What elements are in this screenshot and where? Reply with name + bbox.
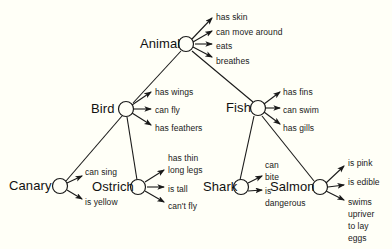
property-label-ostrich-1: long legs bbox=[168, 165, 202, 175]
property-arrow-ostrich-1 bbox=[145, 170, 164, 182]
property-arrow-shark-1 bbox=[248, 176, 262, 183]
property-label-fish-1: can swim bbox=[283, 105, 319, 115]
property-arrow-animal-0 bbox=[192, 18, 212, 39]
property-label-bird-1: can fly bbox=[155, 105, 180, 115]
node-label-canary: Canary bbox=[9, 179, 52, 192]
node-label-bird: Bird bbox=[91, 102, 115, 115]
property-label-salmon-2: swims bbox=[348, 197, 372, 207]
property-label-fish-2: has gills bbox=[283, 123, 314, 133]
node-circle-canary[interactable] bbox=[53, 179, 68, 194]
property-label-salmon-0: is pink bbox=[348, 158, 372, 168]
node-circle-animal[interactable] bbox=[179, 37, 194, 52]
property-arrow-bird-2 bbox=[132, 113, 151, 125]
node-label-fish: Fish bbox=[226, 101, 251, 114]
isa-link-ostrich-bird bbox=[127, 117, 137, 180]
semantic-network-diagram: AnimalBirdFishCanaryOstrichSharkSalmon h… bbox=[0, 0, 392, 249]
property-label-ostrich-2: is tall bbox=[168, 184, 188, 194]
property-label-salmon-4: to lay bbox=[348, 221, 369, 231]
property-arrow-animal-3 bbox=[193, 47, 212, 57]
node-label-ostrich: Ostrich bbox=[92, 180, 134, 193]
property-arrow-shark-2 bbox=[248, 190, 262, 191]
property-arrow-animal-1 bbox=[193, 31, 212, 42]
property-label-ostrich-0: has thin bbox=[168, 153, 198, 163]
node-circle-salmon[interactable] bbox=[313, 180, 328, 195]
property-label-salmon-5: eggs bbox=[348, 233, 367, 243]
property-label-animal-1: can move around bbox=[216, 27, 282, 37]
property-label-fish-0: has fins bbox=[283, 87, 313, 97]
property-arrow-salmon-1 bbox=[328, 185, 344, 187]
node-circle-bird[interactable] bbox=[119, 102, 134, 117]
property-arrow-ostrich-3 bbox=[145, 191, 164, 202]
property-arrow-salmon-0 bbox=[326, 166, 344, 183]
property-label-animal-3: breathes bbox=[216, 56, 249, 66]
isa-link-shark-fish bbox=[240, 116, 254, 180]
property-label-bird-2: has feathers bbox=[155, 123, 202, 133]
property-arrow-canary-1 bbox=[67, 190, 82, 199]
property-label-salmon-3: upriver bbox=[348, 209, 374, 219]
property-label-salmon-1: is edible bbox=[348, 177, 380, 187]
property-label-canary-0: can sing bbox=[85, 167, 117, 177]
property-label-shark-2: is bbox=[265, 186, 271, 196]
property-arrow-salmon-2 bbox=[326, 191, 344, 200]
node-circle-fish[interactable] bbox=[251, 101, 266, 116]
property-label-ostrich-3: can't fly bbox=[168, 201, 197, 211]
property-label-canary-1: is yellow bbox=[85, 197, 118, 207]
node-label-animal: Animal bbox=[140, 37, 180, 50]
property-label-bird-0: has wings bbox=[155, 87, 193, 97]
property-label-animal-2: eats bbox=[216, 41, 232, 51]
node-label-shark: Shark bbox=[203, 180, 237, 193]
property-arrow-fish-0 bbox=[264, 92, 280, 104]
property-label-shark-1: bite bbox=[265, 172, 279, 182]
property-label-shark-3: dangerous bbox=[265, 198, 306, 208]
property-label-animal-0: has skin bbox=[216, 12, 248, 22]
property-label-shark-0: can bbox=[265, 160, 279, 170]
